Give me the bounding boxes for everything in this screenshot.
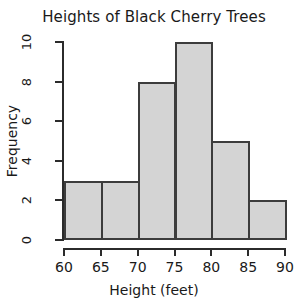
x-axis-tick-label: 60 xyxy=(55,259,73,275)
y-axis-title: Frequency xyxy=(4,105,20,177)
histogram-bar xyxy=(101,181,140,240)
y-axis-tick xyxy=(55,120,62,122)
x-axis-title: Height (feet) xyxy=(0,282,308,298)
x-axis-tick-label: 80 xyxy=(202,259,220,275)
x-axis-tick xyxy=(247,248,249,256)
x-axis-tick xyxy=(100,248,102,256)
chart-title: Heights of Black Cherry Trees xyxy=(0,8,308,26)
y-axis-tick-label: 4 xyxy=(19,157,34,165)
x-axis-tick-label: 75 xyxy=(166,259,184,275)
y-axis-tick-label: 2 xyxy=(19,196,34,204)
x-axis-tick-label: 90 xyxy=(276,259,294,275)
x-axis-tick xyxy=(210,248,212,256)
histogram-bar xyxy=(211,141,250,240)
plot-area xyxy=(64,42,285,240)
x-axis-tick-label: 70 xyxy=(129,259,147,275)
y-axis-tick-label: 0 xyxy=(19,236,34,244)
histogram-bar xyxy=(64,181,103,240)
y-axis-tick-label: 6 xyxy=(19,117,34,125)
x-axis-tick xyxy=(174,248,176,256)
histogram-bar xyxy=(138,82,177,240)
y-axis-tick xyxy=(55,239,62,241)
y-axis-tick xyxy=(55,41,62,43)
x-axis-tick xyxy=(137,248,139,256)
histogram-bar xyxy=(248,200,287,240)
x-axis-tick xyxy=(284,248,286,256)
histogram-figure: Heights of Black Cherry Trees Frequency … xyxy=(0,0,308,307)
x-axis-tick-label: 65 xyxy=(92,259,110,275)
y-axis-tick xyxy=(55,81,62,83)
y-axis-tick-label: 8 xyxy=(19,77,34,85)
x-axis-tick-label: 85 xyxy=(239,259,257,275)
y-axis-tick xyxy=(55,199,62,201)
x-axis-tick xyxy=(63,248,65,256)
y-axis-tick-label: 10 xyxy=(19,34,34,51)
histogram-bar xyxy=(175,42,214,240)
y-axis-tick xyxy=(55,160,62,162)
